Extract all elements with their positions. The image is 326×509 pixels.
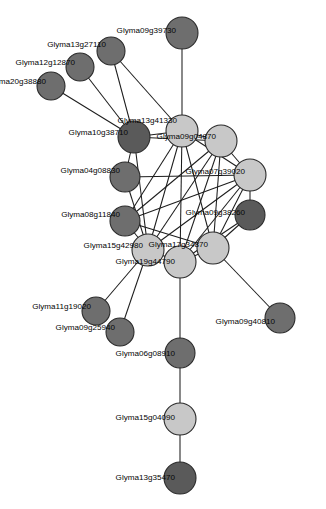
node-label: Glyma09g38260 (186, 208, 246, 217)
node-label: Glyma07g39020 (186, 167, 246, 176)
node-label: Glyma10g38710 (69, 128, 129, 137)
node-label: Glyma04g08830 (61, 166, 121, 175)
node-label: Glyma09g04870 (157, 132, 217, 141)
graph-edge (148, 131, 182, 250)
node-label: Glyma06g08910 (116, 349, 176, 358)
node-label: Glyma13g27110 (47, 40, 106, 49)
node-layer (37, 17, 295, 494)
node-label: Glyma09g39730 (117, 26, 177, 35)
node-label: Glyma15g04090 (116, 413, 176, 422)
node-label: Glyma19g44790 (116, 257, 176, 266)
node-label: Glyma17g34870 (149, 240, 209, 249)
node-label: Glyma08g11840 (61, 210, 120, 219)
node-label: Glyma13g35470 (116, 473, 176, 482)
node-label: Glyma11g19020 (32, 302, 91, 311)
node-label: Glyma15g42980 (84, 241, 144, 250)
node-label: Glyma09g40810 (216, 317, 276, 326)
network-graph-figure: Glyma09g39730Glyma13g27110Glyma12g12870G… (0, 0, 326, 509)
node-label: Glyma13g41330 (118, 116, 178, 125)
network-canvas: Glyma09g39730Glyma13g27110Glyma12g12870G… (0, 0, 326, 509)
node-label: Glyma12g12870 (16, 58, 76, 67)
node-label: Glyma20g38880 (0, 77, 46, 86)
graph-edge (134, 137, 148, 250)
node-label: Glyma09g25940 (56, 323, 116, 332)
